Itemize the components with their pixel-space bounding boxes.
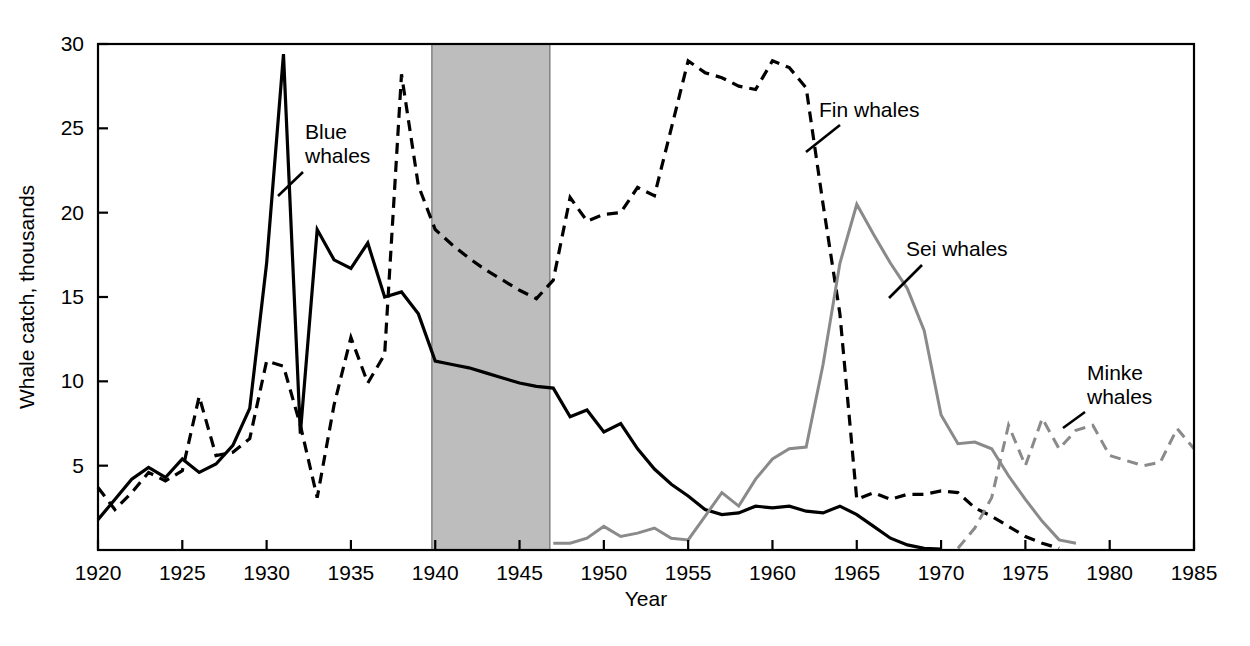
x-tick-label: 1980 [1086, 561, 1133, 584]
x-tick-label: 1955 [665, 561, 712, 584]
shaded-region-wwii [432, 44, 550, 550]
x-tick-label: 1970 [918, 561, 965, 584]
x-tick-label: 1950 [580, 561, 627, 584]
x-tick-label: 1930 [243, 561, 290, 584]
annotation-minke-whales-line-2: whales [1086, 385, 1152, 408]
annotation-blue-whales-line-2: whales [304, 144, 370, 167]
series-line-minke-whales [958, 418, 1194, 548]
annotation-minke-whales-line-1: Minke [1087, 361, 1143, 384]
y-axis-title: Whale catch, thousands [15, 185, 38, 409]
y-tick-label: 10 [61, 369, 84, 392]
annotation-sei-whales-label: Sei whales [906, 237, 1008, 260]
annotation-minke-whales: Minke whales [1063, 361, 1152, 428]
annotation-fin-whales: Fin whales [806, 98, 919, 152]
whale-catch-chart-figure: 1920192519301935194019451950195519601965… [0, 0, 1250, 646]
y-axis-ticks [98, 44, 108, 466]
series-annotation-group: Blue whales Fin whales Sei whales Minke … [278, 98, 1152, 428]
annotation-minke-whales-leader-line [1063, 412, 1085, 428]
y-tick-label: 25 [61, 116, 84, 139]
x-tick-label: 1920 [75, 561, 122, 584]
y-tick-label: 30 [61, 32, 84, 55]
x-tick-label: 1960 [749, 561, 796, 584]
x-axis-tick-labels: 1920192519301935194019451950195519601965… [75, 561, 1218, 584]
x-axis-ticks [98, 540, 1194, 550]
annotation-blue-whales: Blue whales [278, 120, 370, 196]
annotation-fin-whales-label: Fin whales [819, 98, 919, 121]
x-tick-label: 1945 [496, 561, 543, 584]
chart-canvas: 1920192519301935194019451950195519601965… [0, 0, 1250, 646]
y-axis-tick-labels: 51015202530 [61, 32, 84, 477]
x-axis-title: Year [625, 587, 667, 610]
y-tick-label: 15 [61, 285, 84, 308]
y-tick-label: 5 [72, 454, 84, 477]
x-tick-label: 1985 [1171, 561, 1218, 584]
annotation-fin-whales-leader-line [806, 125, 840, 152]
series-group [98, 54, 1194, 549]
annotation-blue-whales-line-1: Blue [305, 120, 347, 143]
x-tick-label: 1925 [159, 561, 206, 584]
x-tick-label: 1935 [328, 561, 375, 584]
x-tick-label: 1965 [833, 561, 880, 584]
y-tick-label: 20 [61, 201, 84, 224]
shaded-region-group [432, 44, 550, 550]
x-tick-label: 1975 [1002, 561, 1049, 584]
x-tick-label: 1940 [412, 561, 459, 584]
